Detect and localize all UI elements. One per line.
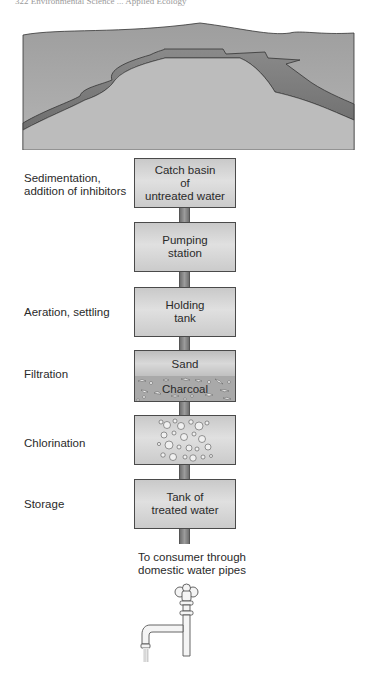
catch-basin-box: Catch basin of untreated water (134, 158, 236, 208)
chlorine-bubbles-icon (155, 417, 215, 463)
process-label-sedimentation: Sedimentation, addition of inhibitors (24, 172, 126, 198)
holding-tank-label: Holding tank (166, 299, 205, 325)
catch-basin-label: Catch basin of untreated water (145, 164, 225, 203)
treated-water-tank-box: Tank of treated water (134, 479, 236, 529)
process-label-storage: Storage (24, 498, 64, 511)
process-label-chlorination: Chlorination (24, 437, 85, 450)
charcoal-layer: Charcoal (135, 376, 235, 401)
holding-tank-box: Holding tank (134, 287, 236, 337)
sand-layer: Sand (135, 351, 235, 377)
treated-water-tank-label: Tank of treated water (151, 491, 218, 517)
pipe-segment (179, 208, 190, 222)
sand-label: Sand (172, 358, 199, 370)
faucet-icon (138, 582, 208, 672)
charcoal-label: Charcoal (162, 383, 208, 395)
pipe-segment (179, 337, 190, 350)
filter-box: Sand Charcoal (134, 350, 236, 402)
pipe-segment (179, 272, 190, 287)
process-label-aeration: Aeration, settling (24, 306, 110, 319)
reservoir-illustration (0, 0, 369, 150)
process-label-filtration: Filtration (24, 368, 68, 381)
pipe-segment (179, 465, 190, 479)
pumping-station-label: Pumping station (162, 234, 207, 260)
chlorination-box (134, 415, 236, 465)
pipe-segment (179, 529, 190, 544)
pipe-segment (179, 402, 190, 415)
output-caption: To consumer through domestic water pipes (137, 551, 247, 577)
pumping-station-box: Pumping station (134, 222, 236, 272)
